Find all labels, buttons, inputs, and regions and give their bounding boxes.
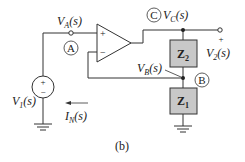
- output-plus-label: +: [218, 34, 223, 44]
- node-a-marker-label: A: [67, 42, 75, 54]
- node-c-dot-icon: [181, 28, 185, 32]
- node-a: VA(s) A: [57, 14, 82, 55]
- current-arrow-left-icon: [65, 101, 71, 105]
- circuit-diagram: + − VA(s) A C VC(s) + V2(s) Z2 B VB(s) Z…: [0, 0, 245, 162]
- node-b-voltage-label: VB(s): [137, 61, 162, 77]
- source-voltage-label: V1(s): [12, 94, 36, 110]
- node-b-marker-label: B: [198, 74, 205, 86]
- impedance-z2: Z2: [170, 40, 197, 67]
- node-c-voltage-label: VC(s): [163, 8, 188, 24]
- node-c-marker-label: C: [150, 9, 157, 21]
- voltage-source-v1: + − V1(s): [12, 76, 54, 110]
- node-a-terminal-icon: [69, 31, 73, 35]
- current-label: IN(s): [64, 109, 87, 125]
- node-c: C VC(s): [147, 8, 188, 32]
- current-in: IN(s): [64, 101, 88, 125]
- output-voltage-label: V2(s): [206, 46, 230, 62]
- op-amp-plus-label: +: [100, 28, 106, 39]
- op-amp-minus-label: −: [100, 47, 106, 58]
- output-terminal: + V2(s): [206, 28, 230, 62]
- z1-ground-icon: [174, 126, 192, 132]
- op-amp: + −: [97, 24, 131, 62]
- figure-caption: (b): [115, 139, 129, 153]
- node-b-dot-icon: [181, 76, 185, 80]
- node-a-voltage-label: VA(s): [57, 14, 82, 30]
- source-plus-label: +: [40, 77, 45, 87]
- output-terminal-icon: [218, 28, 222, 32]
- source-minus-label: −: [40, 87, 45, 97]
- impedance-z1: Z1: [170, 88, 197, 114]
- source-ground-icon: [34, 124, 52, 130]
- node-b-leader-line: [165, 70, 181, 77]
